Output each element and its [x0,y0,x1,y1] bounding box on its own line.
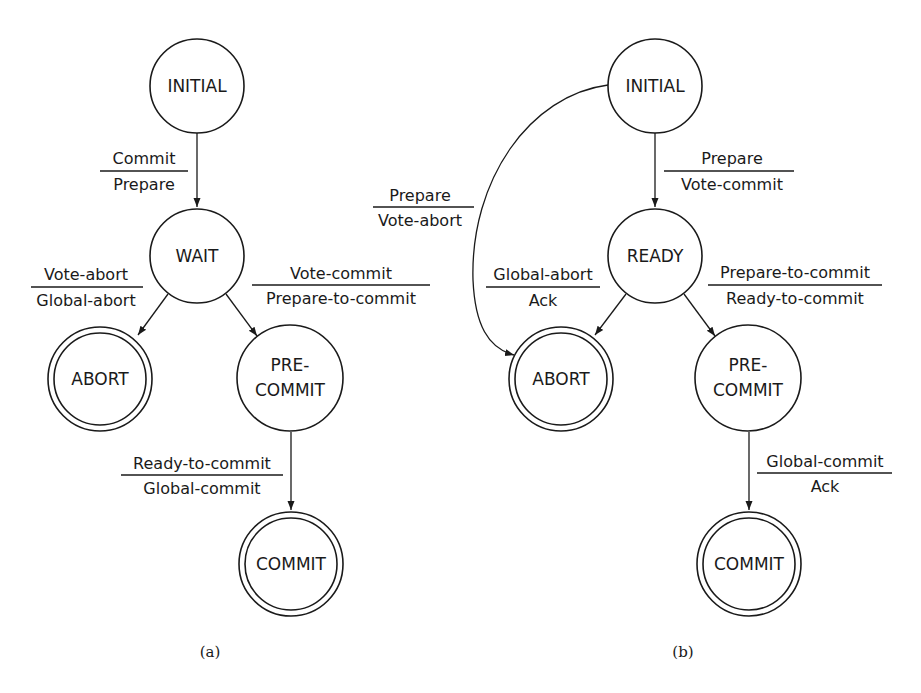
label-initial-abort: Prepare Vote-abort [373,186,474,230]
transition-output: Ready-to-commit [726,289,864,308]
transition-output: Vote-abort [378,211,462,230]
state-label: COMMIT [714,554,785,574]
transition-input: Prepare [701,149,762,168]
state-label: ABORT [71,369,129,389]
transition-input: Vote-commit [290,264,392,283]
state-commit: COMMIT [697,512,801,616]
edge-wait-precommit [226,294,257,336]
state-precommit: PRE- COMMIT [695,325,801,431]
state-precommit: PRE- COMMIT [237,325,343,431]
state-label-line2: COMMIT [255,380,326,400]
edge-initial-abort [473,85,608,355]
state-ready: READY [608,209,702,303]
caption-a: (a) [200,643,221,661]
label-ready-precommit: Prepare-to-commit Ready-to-commit [708,263,882,308]
transition-output: Vote-commit [681,175,783,194]
state-label: READY [627,246,684,266]
state-wait: WAIT [150,209,244,303]
transition-input: Commit [113,149,176,168]
state-label: WAIT [176,246,220,266]
diagram-a: INITIAL WAIT ABORT PRE- COMMIT COMMIT Co… [31,39,430,661]
state-initial: INITIAL [608,39,702,133]
label-precommit-commit: Ready-to-commit Global-commit [121,454,283,498]
transition-input: Ready-to-commit [133,454,271,473]
state-label: ABORT [532,369,590,389]
label-wait-abort: Vote-abort Global-abort [31,265,143,310]
diagram-b: INITIAL READY ABORT PRE- COMMIT COMMIT P… [373,39,892,661]
state-abort: ABORT [509,327,613,431]
transition-output: Ack [811,477,840,496]
transition-input: Vote-abort [44,265,128,284]
transition-output: Global-commit [143,479,260,498]
edge-wait-abort [138,294,168,335]
state-abort: ABORT [48,327,152,431]
state-commit: COMMIT [239,512,343,616]
label-initial-wait: Commit Prepare [100,149,188,194]
three-phase-commit-diagram: INITIAL WAIT ABORT PRE- COMMIT COMMIT Co… [0,0,921,693]
edge-ready-abort [595,294,626,335]
state-label: COMMIT [256,554,327,574]
label-initial-ready: Prepare Vote-commit [664,149,794,194]
label-ready-abort: Global-abort Ack [486,265,600,310]
transition-input: Prepare [389,186,450,205]
label-wait-precommit: Vote-commit Prepare-to-commit [252,264,430,308]
transition-output: Ack [529,291,558,310]
label-precommit-commit: Global-commit Ack [757,452,892,496]
transition-output: Global-abort [36,291,135,310]
state-label: INITIAL [167,76,227,96]
state-label-line2: COMMIT [713,380,784,400]
state-initial: INITIAL [150,39,244,133]
caption-b: (b) [672,643,693,661]
transition-input: Global-commit [766,452,883,471]
edge-ready-precommit [684,294,715,336]
transition-input: Global-abort [493,265,592,284]
transition-output: Prepare-to-commit [266,289,416,308]
transition-input: Prepare-to-commit [720,263,870,282]
transition-output: Prepare [113,175,174,194]
state-label-line1: PRE- [271,355,310,375]
state-label-line1: PRE- [729,355,768,375]
state-label: INITIAL [625,76,685,96]
